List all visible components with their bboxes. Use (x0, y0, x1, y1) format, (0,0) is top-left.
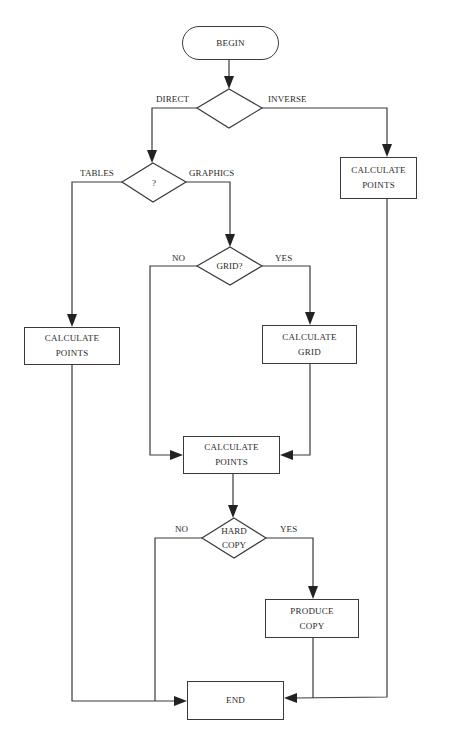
arrow-head-icon (224, 76, 234, 89)
arrow-head-icon (382, 144, 392, 157)
connector-lines (0, 0, 456, 740)
arrow-head-icon (147, 150, 157, 163)
end-node: END (187, 681, 284, 720)
edge-label-direct: DIRECT (156, 94, 189, 104)
arrow-head-icon (280, 450, 293, 460)
arrow-head-icon (308, 586, 318, 599)
decision-text-line2: COPY (222, 538, 246, 552)
hardcopy-decision-label: HARD COPY (202, 518, 266, 558)
edge-label-grid-yes: YES (275, 253, 292, 263)
arrow-head-icon (170, 450, 183, 460)
edge-label-tables: TABLES (80, 168, 114, 178)
decision-text-line1: HARD (221, 524, 247, 538)
arrow-head-icon (284, 693, 297, 703)
calculate-points-inverse-node: CALCULATE POINTS (340, 157, 417, 199)
flowchart-canvas: BEGIN CALCULATE POINTS CALCULATE POINTS … (0, 0, 456, 740)
decision-text: ? (152, 176, 156, 190)
arrow-head-icon (225, 234, 235, 247)
node-label-line1: CALCULATE (351, 163, 405, 178)
begin-label: BEGIN (216, 36, 245, 51)
decision-text: GRID? (217, 259, 243, 273)
node-label-line2: COPY (300, 619, 325, 634)
produce-copy-node: PRODUCE COPY (265, 599, 359, 638)
calculate-points-tables-node: CALCULATE POINTS (24, 327, 120, 365)
calculate-points-graphics-node: CALCULATE POINTS (183, 436, 280, 474)
node-label-line2: GRID (298, 345, 321, 360)
edge-label-inverse: INVERSE (268, 94, 307, 104)
edge-label-hardcopy-no: NO (175, 524, 188, 534)
node-label-line2: POINTS (56, 346, 89, 361)
direction-decision-diamond (197, 89, 262, 128)
node-label-line2: POINTS (362, 178, 395, 193)
calculate-grid-node: CALCULATE GRID (262, 325, 357, 364)
node-label-line1: CALCULATE (282, 330, 336, 345)
node-label-line1: CALCULATE (204, 440, 258, 455)
arrow-head-icon (174, 696, 187, 706)
edge-label-hardcopy-yes: YES (280, 524, 297, 534)
edge-label-graphics: GRAPHICS (189, 168, 234, 178)
output-decision-label: ? (122, 163, 186, 202)
node-label-line1: PRODUCE (290, 604, 333, 619)
node-label-line2: POINTS (215, 455, 248, 470)
edge-label-grid-no: NO (172, 253, 185, 263)
node-label-line1: CALCULATE (45, 331, 99, 346)
begin-node: BEGIN (182, 26, 279, 60)
end-label: END (226, 693, 245, 708)
arrow-head-icon (305, 312, 315, 325)
grid-decision-label: GRID? (197, 247, 262, 285)
arrow-head-icon (67, 314, 77, 327)
arrow-head-icon (228, 505, 238, 518)
